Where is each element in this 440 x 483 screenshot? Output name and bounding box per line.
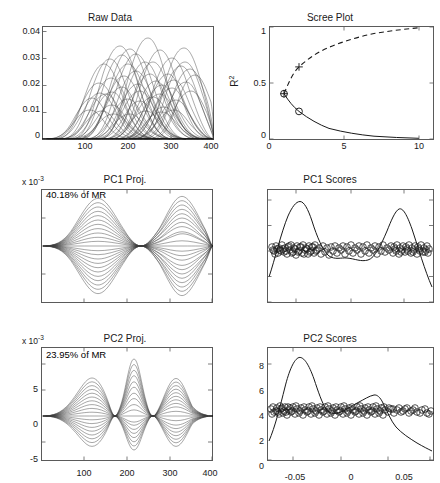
panel-pc2-proj: PC2 Proj. x 10-3 10 5 0 -5 100 200 300 4… <box>0 325 220 483</box>
xtick-scree-0: 0 <box>266 141 271 151</box>
axis-exponent-pc2-proj: x 10-3 <box>22 334 44 346</box>
panel-pc1-scores: PC1 Scores 8 6 4 2 0 -0.05 0 0.05 <box>220 165 440 325</box>
panel-title-pc1-scores: PC1 Scores <box>220 174 440 185</box>
ytick-raw-2: 0.02 <box>2 78 40 88</box>
figure-canvas: Raw Data 0.04 0.03 0.02 0.01 0 100 200 3… <box>0 0 440 483</box>
xtick-raw-0: 100 <box>77 141 92 151</box>
ytick-scree-2: 0 <box>238 130 266 140</box>
xtick-scree-1: 5 <box>341 141 346 151</box>
plot-area-raw-data <box>42 26 214 140</box>
ytick-raw-3: 0.01 <box>2 104 40 114</box>
xtick-raw-3: 400 <box>203 141 218 151</box>
ytick-scree-1: 0.5 <box>238 78 266 88</box>
panel-scree-plot: Scree Plot R2 1 0.5 0 0 5 10 <box>220 0 440 165</box>
panel-title-pc2-proj: PC2 Proj. <box>30 333 220 344</box>
panel-raw-data: Raw Data 0.04 0.03 0.02 0.01 0 100 200 3… <box>0 0 220 165</box>
xtick-scree-2: 10 <box>414 141 424 151</box>
panel-pc1-proj: PC1 Proj. x 10-3 5 0 -5 100 200 300 400 … <box>0 165 220 325</box>
plot-area-pc2-proj <box>41 347 213 461</box>
panel-title-scree-plot: Scree Plot <box>220 12 440 23</box>
panel-title-pc1-proj: PC1 Proj. <box>30 174 220 185</box>
plot-area-pc1-proj <box>41 189 213 303</box>
axis-exponent-pc1-proj: x 10-3 <box>22 175 44 187</box>
ytick-raw-4: 0 <box>2 130 40 140</box>
plot-area-pc2-scores <box>267 347 434 461</box>
xtick-raw-1: 200 <box>120 141 135 151</box>
plot-area-pc1-scores <box>267 189 434 303</box>
panel-pc2-scores: PC2 Scores 10 5 0 -0.05 0 0.05 0.1 <box>220 325 440 483</box>
xtick-raw-2: 300 <box>163 141 178 151</box>
ytick-raw-0: 0.04 <box>2 26 40 36</box>
panel-title-pc2-scores: PC2 Scores <box>220 333 440 344</box>
plot-area-scree-plot <box>269 26 434 140</box>
panel-title-raw-data: Raw Data <box>0 12 220 23</box>
ytick-raw-1: 0.03 <box>2 52 40 62</box>
ytick-scree-0: 1 <box>238 26 266 36</box>
